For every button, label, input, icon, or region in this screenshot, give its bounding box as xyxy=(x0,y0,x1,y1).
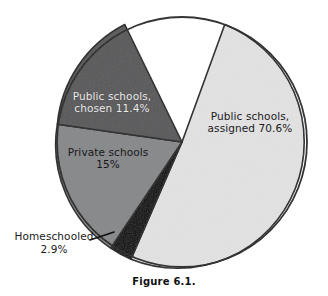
pie-chart-svg xyxy=(0,0,328,296)
figure-caption: Figure 6.1. xyxy=(0,276,328,287)
pie-slice-public-chosen xyxy=(57,24,182,142)
figure-pie-chart: Public schools, assigned 70.6% Public sc… xyxy=(0,0,328,296)
